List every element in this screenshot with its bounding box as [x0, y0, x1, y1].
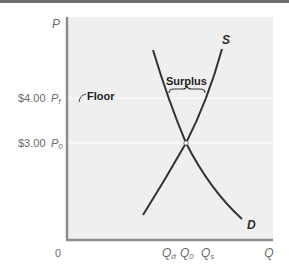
floor-price-value: $4.00: [18, 92, 46, 104]
floor-annotation: Floor: [87, 90, 115, 102]
surplus-annotation: Surplus: [166, 75, 207, 87]
supply-curve-label: S: [222, 33, 230, 47]
equilibrium-point: [184, 141, 188, 145]
x-axis-label: Q: [264, 246, 273, 260]
equilibrium-price-symbol: P0: [51, 137, 63, 151]
equilibrium-quantity-label: Q0: [180, 246, 194, 261]
plot-area: [67, 17, 273, 240]
demand-curve-label: D: [247, 218, 256, 232]
origin-label: 0: [55, 247, 61, 259]
quantity-supplied-label: Qs: [201, 246, 214, 261]
floor-price-symbol: Pf: [51, 92, 61, 106]
y-axis-label: P: [52, 17, 60, 31]
supply-demand-diagram: P Q 0 $4.00 Pf $3.00 P0 Qd Q0 Qs S D Flo…: [0, 0, 289, 277]
equilibrium-price-value: $3.00: [18, 137, 46, 149]
quantity-demanded-label: Qd: [162, 246, 176, 261]
